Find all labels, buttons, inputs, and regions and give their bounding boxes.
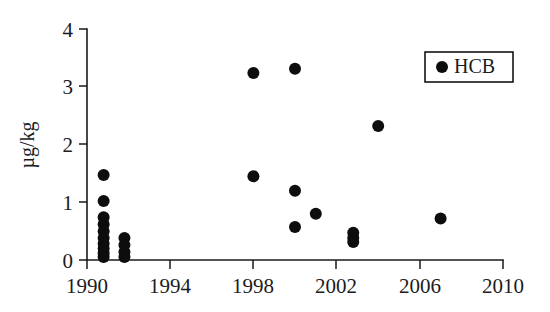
data-point bbox=[98, 251, 110, 263]
y-tick-label-2: 2 bbox=[63, 133, 74, 157]
x-tick-label-1990: 1990 bbox=[66, 274, 108, 298]
data-point bbox=[247, 170, 259, 182]
data-point bbox=[98, 195, 110, 207]
scatter-chart-figure: 4 3 2 1 0 1990 1994 1998 2002 2006 2010 … bbox=[0, 0, 550, 312]
plot-area: 4 3 2 1 0 1990 1994 1998 2002 2006 2010 … bbox=[0, 0, 550, 312]
data-point bbox=[347, 236, 359, 248]
data-point bbox=[247, 67, 259, 79]
y-axis-title: µg/kg bbox=[16, 121, 39, 168]
y-tick-label-3: 3 bbox=[63, 75, 74, 99]
data-points-layer bbox=[98, 63, 447, 263]
x-tick-label-1998: 1998 bbox=[232, 274, 274, 298]
legend-marker-icon bbox=[436, 61, 448, 73]
y-tick-label-0: 0 bbox=[63, 249, 74, 273]
data-point bbox=[118, 251, 130, 263]
data-point bbox=[289, 63, 301, 75]
data-point bbox=[435, 212, 447, 224]
data-point bbox=[98, 169, 110, 181]
legend[interactable]: HCB bbox=[425, 52, 513, 82]
y-axis-tick-labels: 4 3 2 1 0 bbox=[63, 18, 74, 273]
x-tick-label-2010: 2010 bbox=[482, 274, 524, 298]
data-point bbox=[289, 221, 301, 233]
legend-label-hcb: HCB bbox=[454, 55, 495, 77]
x-tick-label-1994: 1994 bbox=[149, 274, 192, 298]
x-axis-ticks bbox=[87, 260, 503, 269]
data-point bbox=[310, 208, 322, 220]
y-tick-label-1: 1 bbox=[63, 191, 74, 215]
x-axis-tick-labels: 1990 1994 1998 2002 2006 2010 bbox=[66, 274, 524, 298]
y-tick-label-4: 4 bbox=[63, 18, 74, 42]
x-tick-label-2002: 2002 bbox=[315, 274, 357, 298]
y-axis-ticks bbox=[79, 29, 87, 260]
data-point bbox=[372, 120, 384, 132]
data-point bbox=[289, 185, 301, 197]
x-tick-label-2006: 2006 bbox=[399, 274, 441, 298]
